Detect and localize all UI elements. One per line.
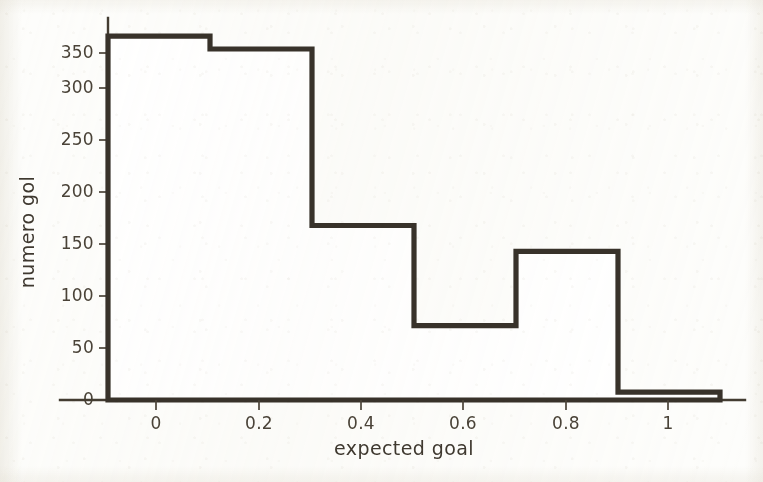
y-tick-label-100: 100 <box>61 285 94 305</box>
y-tick-label-300: 300 <box>61 77 94 97</box>
x-tick-label-0: 0 <box>150 413 161 433</box>
histogram-chart: 0 50 100 150 200 250 300 350 0 <box>0 0 763 482</box>
x-tick-label-02: 0.2 <box>245 413 273 433</box>
y-axis-title: numero gol <box>16 176 38 288</box>
x-tick-label-04: 0.4 <box>347 413 375 433</box>
histogram-bars <box>108 36 720 400</box>
x-tick-label-1: 1 <box>662 413 673 433</box>
x-tick-label-08: 0.8 <box>552 413 580 433</box>
x-axis-tick-labels: 0 0.2 0.4 0.6 0.8 1 <box>150 413 673 433</box>
y-tick-label-50: 50 <box>72 337 94 357</box>
x-axis-title: expected goal <box>334 437 474 459</box>
y-tick-label-350: 350 <box>61 42 94 62</box>
y-axis-tick-labels: 0 50 100 150 200 250 300 350 <box>61 42 94 409</box>
y-tick-label-250: 250 <box>61 129 94 149</box>
chart-canvas: 0 50 100 150 200 250 300 350 0 <box>0 0 763 482</box>
x-tick-label-06: 0.6 <box>449 413 477 433</box>
y-tick-label-200: 200 <box>61 181 94 201</box>
y-tick-label-150: 150 <box>61 233 94 253</box>
